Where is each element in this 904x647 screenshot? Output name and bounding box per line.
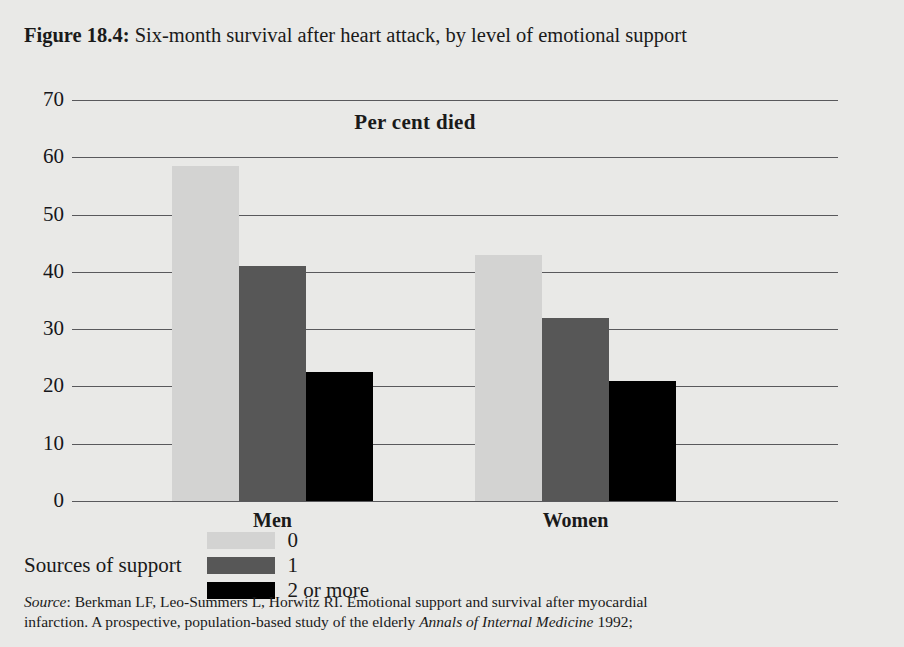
legend-title: Sources of support <box>24 553 181 578</box>
x-axis-label-women: Women <box>496 508 656 532</box>
bars-layer <box>0 100 904 501</box>
legend-label-0: 0 <box>287 528 298 553</box>
legend-label-1: 1 <box>287 553 298 578</box>
legend-item-0: 0 <box>207 528 369 553</box>
bar-chart: 706050403020100 Per cent died MenWomen <box>0 0 904 520</box>
source-line-2-text-b: 1992; <box>594 613 633 630</box>
source-line-1-text: : Berkman LF, Leo-Summers L, Horwitz RI.… <box>66 593 647 610</box>
source-note-line-1: Source: Berkman LF, Leo-Summers L, Horwi… <box>24 592 876 612</box>
journal-name: Annals of Internal Medicine <box>419 613 593 630</box>
source-note-line-2: infarction. A prospective, population-ba… <box>24 612 876 632</box>
bar-women-support-0 <box>475 255 542 501</box>
legend-item-1: 1 <box>207 553 369 578</box>
bar-men-support-1 <box>239 266 306 501</box>
source-line-2-text-a: infarction. A prospective, population-ba… <box>24 613 419 630</box>
source-note: Source: Berkman LF, Leo-Summers L, Horwi… <box>24 592 876 632</box>
bar-women-support-2 <box>609 381 676 501</box>
source-prefix: Source <box>24 593 66 610</box>
legend-swatch-1 <box>207 557 275 574</box>
bar-men-support-2 <box>306 372 373 501</box>
bar-men-support-0 <box>172 166 239 501</box>
figure-page: Figure 18.4: Six-month survival after he… <box>0 0 904 647</box>
chart-legend: Sources of support 012 or more <box>24 548 397 582</box>
legend-swatch-0 <box>207 532 275 549</box>
bar-women-support-1 <box>542 318 609 501</box>
gridline <box>72 501 838 502</box>
